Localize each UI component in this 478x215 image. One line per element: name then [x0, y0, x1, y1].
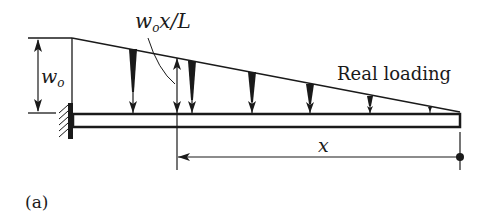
loading-title: Real loading: [337, 63, 451, 84]
beam-diagram: wo wox/L Real loading: [0, 0, 478, 215]
intensity-dimension: wo: [34, 39, 65, 112]
label-leader-line: [148, 38, 175, 84]
fixed-support-wall: [59, 103, 73, 139]
load-at-x-label: wox/L: [135, 9, 191, 35]
distance-dimension: x: [178, 132, 464, 170]
intensity-label: wo: [41, 65, 65, 90]
distance-label: x: [318, 134, 329, 156]
beam: [73, 114, 460, 127]
panel-label: (a): [25, 192, 48, 212]
